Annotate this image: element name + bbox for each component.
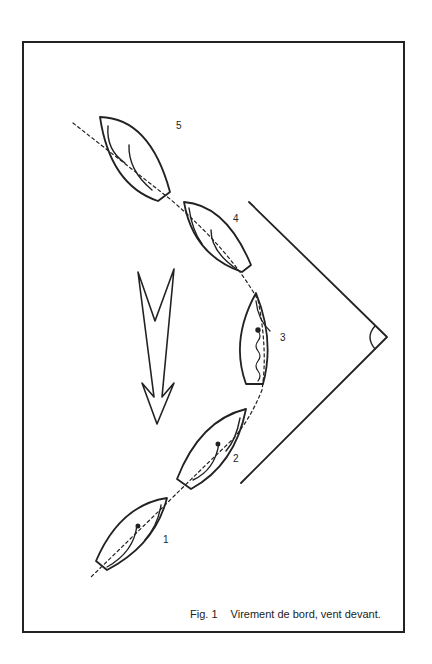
caption-text: Virement de bord, vent devant.: [231, 608, 381, 620]
boat-label-3: 3: [280, 332, 286, 343]
figure-caption: Fig. 1 Virement de bord, vent devant.: [190, 608, 381, 620]
wind-arrow-icon: [138, 269, 174, 424]
boat-1: [96, 498, 167, 570]
boat-5: [100, 117, 170, 201]
right-angle-marker: [370, 326, 375, 349]
boat-label-2: 2: [233, 453, 239, 464]
figure-number: Fig. 1: [190, 608, 218, 620]
course-path: [73, 123, 264, 578]
boat-label-1: 1: [163, 534, 169, 545]
boat-4: [184, 202, 251, 272]
tacking-diagram: 5 4 3 2 1: [0, 0, 432, 664]
boat-3: [240, 293, 270, 384]
boat-label-5: 5: [176, 120, 182, 131]
wind-angle: [241, 202, 387, 483]
boat-label-4: 4: [233, 213, 239, 224]
boat-2: [177, 409, 246, 489]
